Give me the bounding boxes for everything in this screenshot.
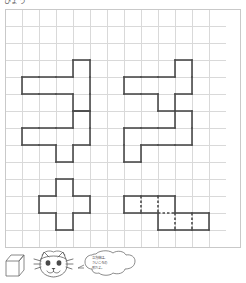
illustration-band: 立方体は、 さいころの 形だよ。 [0, 249, 246, 283]
worksheet-page: ひょう [0, 0, 246, 283]
page-header-text: ひょう [4, 0, 26, 5]
grid-canvas [5, 9, 241, 248]
speech-bubble-line-2: さいころの [92, 260, 108, 265]
cat-character [34, 251, 73, 277]
speech-bubble-line-1: 立方体は、 [92, 255, 107, 260]
speech-bubble: 立方体は、 さいころの 形だよ。 [78, 251, 135, 275]
grid-panel [5, 9, 241, 248]
illustration-canvas: 立方体は、 さいころの 形だよ。 [0, 249, 246, 283]
cube-diagram [6, 255, 24, 276]
speech-bubble-line-3: 形だよ。 [92, 265, 104, 270]
